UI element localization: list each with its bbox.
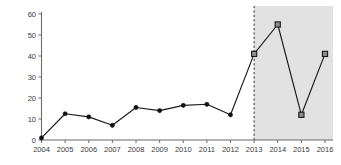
- data-point-marker-circle: [134, 105, 138, 109]
- y-tick-label: 30: [28, 73, 36, 82]
- data-point-marker-square: [299, 112, 304, 117]
- x-tick-label: 2015: [293, 145, 310, 154]
- y-tick-label: 20: [28, 94, 36, 103]
- x-tick-label: 2004: [33, 145, 50, 154]
- data-point-marker-circle: [228, 113, 232, 117]
- y-tick-label: 10: [28, 115, 36, 124]
- x-tick-label: 2006: [80, 145, 97, 154]
- y-tick-label: 60: [28, 10, 36, 19]
- x-tick-label: 2014: [269, 145, 286, 154]
- x-tick-label: 2010: [175, 145, 192, 154]
- x-tick-label: 2012: [222, 145, 239, 154]
- x-tick-label: 2009: [151, 145, 168, 154]
- y-tick-label: 0: [32, 136, 36, 145]
- x-axis: 2004200520062007200820092010201120122013…: [33, 140, 333, 154]
- data-point-marker-circle: [205, 102, 209, 106]
- data-point-marker-square: [252, 51, 257, 56]
- y-tick-label: 40: [28, 52, 36, 61]
- data-point-marker-circle: [110, 123, 114, 127]
- data-point-marker-circle: [181, 103, 185, 107]
- chart-container: 0102030405060 20042005200620072008200920…: [0, 0, 341, 165]
- line-chart: 0102030405060 20042005200620072008200920…: [0, 0, 341, 165]
- data-point-marker-square: [322, 51, 327, 56]
- x-tick-label: 2011: [199, 145, 215, 154]
- y-axis: 0102030405060: [28, 10, 42, 145]
- x-tick-label: 2013: [246, 145, 263, 154]
- x-tick-label: 2016: [317, 145, 334, 154]
- x-tick-label: 2005: [57, 145, 74, 154]
- data-point-marker-circle: [39, 136, 43, 140]
- x-tick-label: 2007: [104, 145, 121, 154]
- data-point-marker-square: [275, 22, 280, 27]
- era-shaded-region: [254, 6, 333, 140]
- data-point-marker-circle: [87, 115, 91, 119]
- data-point-marker-circle: [158, 109, 162, 113]
- y-tick-label: 50: [28, 31, 36, 40]
- x-tick-label: 2008: [128, 145, 145, 154]
- data-point-marker-circle: [63, 112, 67, 116]
